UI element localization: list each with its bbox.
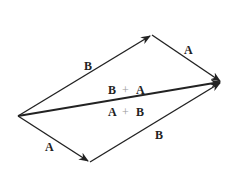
vector-a-upper [152, 35, 220, 81]
label-a-upper: A [184, 43, 193, 57]
label-sum-upper-b: B [108, 83, 116, 97]
vector-parallelogram-diagram: B A A B B + A A + B [0, 0, 241, 174]
label-sum-lower-plus: + [122, 105, 129, 119]
vector-a-lower [18, 116, 88, 161]
label-sum-upper-plus: + [122, 83, 129, 97]
label-a-lower: A [45, 140, 54, 154]
label-b-upper: B [84, 59, 92, 73]
label-sum-lower-a: A [108, 105, 117, 119]
label-sum-upper-a: A [136, 83, 145, 97]
label-sum-lower-b: B [136, 105, 144, 119]
vector-resultant [18, 82, 220, 116]
label-b-lower: B [155, 128, 163, 142]
